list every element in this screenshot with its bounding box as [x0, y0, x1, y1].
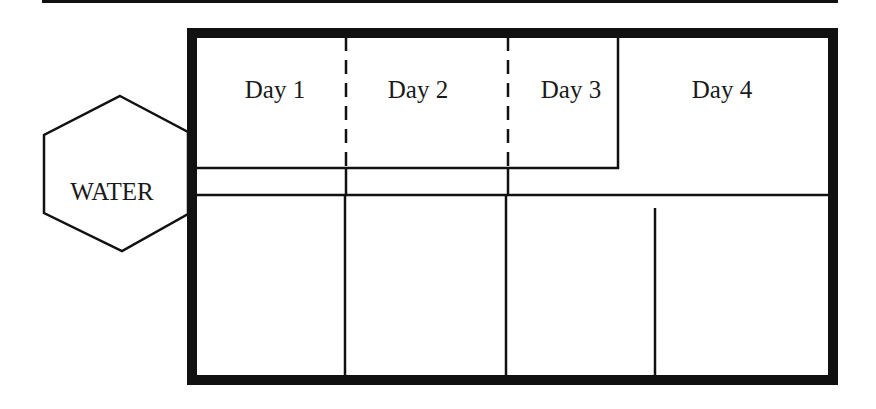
day1-label: Day 1: [245, 77, 305, 102]
day2-label: Day 2: [388, 77, 448, 102]
day4-label: Day 4: [692, 77, 752, 102]
day3-label: Day 3: [541, 77, 601, 102]
water-hexagon: [44, 96, 188, 251]
top-rule: [42, 0, 838, 3]
enclosure-diagram: [0, 0, 876, 409]
water-label: WATER: [70, 179, 153, 204]
